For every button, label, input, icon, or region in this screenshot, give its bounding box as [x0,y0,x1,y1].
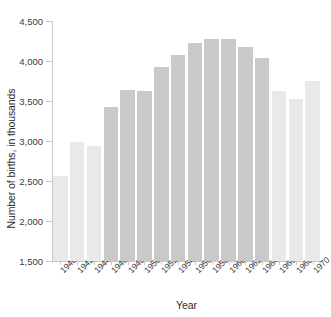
bar [104,107,118,261]
bar [255,58,269,261]
bar [221,39,235,261]
bar [154,67,168,261]
y-tick-label: 4,500 [19,16,43,27]
plot-area [52,21,321,261]
y-tick-label: 1,500 [19,256,43,267]
y-tick-label: 3,500 [19,96,43,107]
bar [53,176,67,261]
y-tick-label: 4,000 [19,56,43,67]
y-tick-label: 3,000 [19,136,43,147]
bar [238,47,252,261]
bar [204,39,218,261]
bar [70,142,84,261]
bar [87,146,101,261]
bar [137,91,151,261]
x-axis-title: Year [52,299,321,311]
bar [289,99,303,261]
y-tick-label: 2,000 [19,216,43,227]
bar [272,91,286,261]
bar [188,43,202,261]
y-tick-label: 2,500 [19,176,43,187]
bar [120,90,134,261]
y-axis-title: Number of births, in thousands [0,0,22,317]
bar [305,81,319,261]
bar [171,55,185,261]
y-tick [46,261,52,262]
